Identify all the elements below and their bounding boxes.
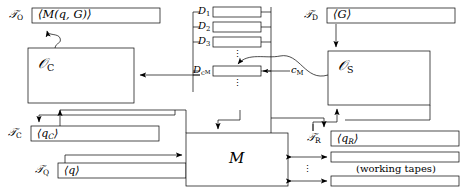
oracle-label-1: D1	[198, 6, 210, 16]
oracle-box-cm	[213, 66, 261, 76]
tape-label-reply: 𝒯R	[307, 132, 321, 143]
working-tape-2	[331, 176, 459, 186]
working-tape-1	[331, 152, 459, 162]
oracle-ellipsis-upper: ⋮	[233, 49, 242, 59]
machine-label-compiler: 𝒪C	[38, 56, 54, 70]
tape-content-output: ⟨M(q, G)⟩	[38, 9, 92, 21]
oracle-label-3: D3	[198, 36, 210, 46]
cm-pointer-label: cM	[291, 65, 304, 75]
tape-label-control: 𝒯C	[8, 127, 22, 138]
working-tapes-ellipsis: ⋮	[303, 164, 312, 174]
oracle-label-cm: DcM	[193, 65, 211, 75]
tape-content-control: ⟨qC⟩	[37, 128, 58, 139]
tape-content-query: ⟨q⟩	[64, 165, 80, 176]
tape-label-output: 𝒯O	[9, 9, 23, 20]
oracle-ellipsis-lower: ⋮	[233, 78, 242, 88]
oracle-label-2: D2	[198, 21, 210, 31]
figure-canvas: 𝒯O ⟨M(q, G)⟩ 𝒪C D1 D2 D3 DcM ⋮ ⋮ cM 𝒯D ⟨…	[0, 0, 474, 193]
tape-label-query: 𝒯Q	[35, 164, 49, 175]
machine-label-simulator: 𝒪S	[338, 58, 354, 72]
oracle-box-1	[213, 7, 261, 17]
machine-label-main: M	[229, 151, 244, 166]
tape-content-reply: ⟨qR⟩	[337, 133, 358, 144]
tape-label-description: 𝒯D	[304, 9, 318, 20]
oracle-box-3	[213, 37, 261, 47]
oracle-box-2	[213, 22, 261, 32]
working-tapes-caption: (working tapes)	[356, 164, 436, 174]
tape-content-description: ⟨G⟩	[333, 9, 351, 21]
